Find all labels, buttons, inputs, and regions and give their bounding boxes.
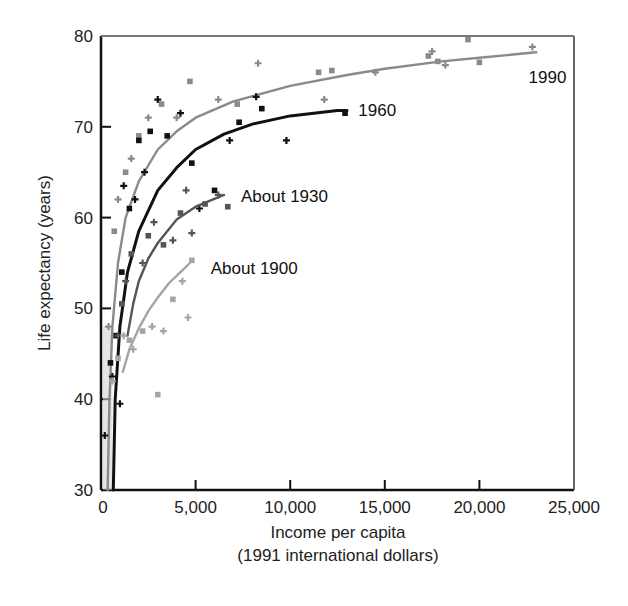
data-point — [477, 60, 483, 66]
data-point — [187, 79, 193, 85]
y-tick-label: 70 — [74, 118, 93, 137]
data-point — [108, 360, 114, 366]
series-layer — [101, 37, 536, 490]
y-tick-label: 30 — [74, 481, 93, 500]
x-tick-label: 15,000 — [359, 498, 411, 517]
data-point — [225, 204, 231, 210]
data-point — [189, 160, 195, 166]
data-point — [316, 70, 322, 76]
data-point — [215, 96, 222, 103]
y-tick-label: 80 — [74, 27, 93, 46]
data-point — [146, 233, 152, 239]
y-tick-label: 40 — [74, 390, 93, 409]
series-label: About 1930 — [241, 187, 328, 206]
data-point — [329, 68, 335, 74]
data-point — [115, 356, 121, 362]
series-about-1900 — [109, 257, 195, 397]
y-tick-label: 60 — [74, 209, 93, 228]
data-point — [147, 129, 153, 135]
data-point — [160, 328, 167, 335]
data-point — [120, 332, 127, 339]
data-point — [136, 138, 142, 144]
series-label: 1990 — [529, 68, 567, 87]
x-axis-title: Income per capita — [270, 523, 406, 542]
x-tick-label: 0 — [98, 498, 107, 517]
data-point — [169, 237, 176, 244]
data-point — [321, 96, 328, 103]
data-point — [116, 400, 123, 407]
data-point — [150, 219, 157, 226]
data-point — [111, 228, 117, 234]
data-point — [226, 137, 233, 144]
series-1990 — [105, 37, 536, 490]
data-point — [140, 328, 146, 334]
data-point — [145, 114, 152, 121]
data-point — [188, 230, 195, 237]
data-point — [127, 206, 133, 212]
data-point — [119, 269, 125, 275]
data-point — [119, 301, 125, 307]
data-point — [123, 169, 129, 175]
data-point — [426, 53, 432, 59]
x-axis-subtitle: (1991 international dollars) — [237, 546, 438, 565]
data-point — [259, 106, 265, 112]
data-point — [155, 392, 161, 398]
chart: 304050607080 05,00010,00015,00020,00025,… — [0, 0, 628, 606]
data-point — [128, 155, 135, 162]
data-point — [115, 196, 122, 203]
data-point — [529, 43, 536, 50]
x-tick-label: 20,000 — [453, 498, 505, 517]
data-point — [159, 101, 165, 107]
plot-frame — [101, 36, 574, 490]
data-point — [179, 278, 186, 285]
data-point — [212, 188, 218, 194]
x-tick-label: 5,000 — [174, 498, 217, 517]
trend-curve — [123, 263, 190, 372]
data-point — [442, 62, 449, 69]
data-point — [161, 242, 167, 248]
data-point — [173, 114, 180, 121]
data-point — [170, 297, 176, 303]
series-1960 — [101, 93, 348, 490]
data-point — [283, 137, 290, 144]
data-point — [177, 110, 184, 117]
data-point — [465, 37, 471, 43]
data-point — [149, 323, 156, 330]
data-point — [185, 314, 192, 321]
data-point — [255, 60, 262, 67]
data-point — [183, 187, 190, 194]
series-labels: 19901960About 1930About 1900 — [211, 68, 567, 278]
trend-curve — [108, 52, 537, 490]
data-point — [164, 133, 170, 139]
x-tick-label: 10,000 — [264, 498, 316, 517]
data-point — [236, 119, 242, 125]
data-point — [234, 101, 240, 107]
x-axis: 05,00010,00015,00020,00025,000 — [98, 480, 600, 517]
y-axis-title: Life expectancy (years) — [35, 175, 54, 351]
y-tick-label: 50 — [74, 299, 93, 318]
series-label: 1960 — [358, 101, 396, 120]
data-point — [128, 251, 134, 257]
x-tick-label: 25,000 — [548, 498, 600, 517]
series-label: About 1900 — [211, 259, 298, 278]
data-point — [120, 182, 127, 189]
